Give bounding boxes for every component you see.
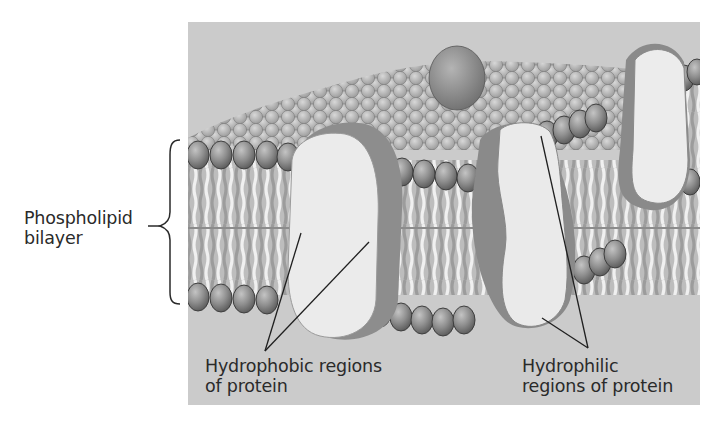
label-line: regions of protein <box>522 376 673 396</box>
label-line: of protein <box>205 376 382 396</box>
peripheral-protein-dome <box>429 46 485 110</box>
bilayer-brace <box>160 140 180 304</box>
label-line: Phospholipid <box>24 208 133 228</box>
label-line: Hydrophilic <box>522 356 673 376</box>
label-line: Hydrophobic regions <box>205 356 382 376</box>
label-hydrophobic-regions: Hydrophobic regions of protein <box>205 356 382 396</box>
label-line: bilayer <box>24 228 133 248</box>
membrane-diagram: Phospholipid bilayer Hydrophobic regions… <box>0 0 710 421</box>
label-hydrophilic-regions: Hydrophilic regions of protein <box>522 356 673 396</box>
label-phospholipid-bilayer: Phospholipid bilayer <box>24 208 133 248</box>
